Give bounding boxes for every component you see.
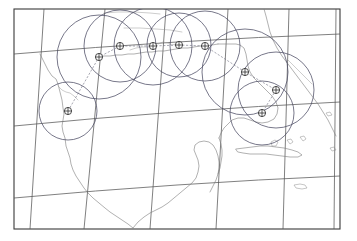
position-marker[interactable]: [64, 107, 71, 114]
position-marker[interactable]: [201, 42, 208, 49]
position-marker[interactable]: [241, 68, 248, 75]
position-marker[interactable]: [272, 86, 279, 93]
map-figure: [0, 0, 357, 241]
position-marker[interactable]: [175, 41, 182, 48]
map-canvas: [0, 0, 357, 241]
position-marker[interactable]: [258, 109, 265, 116]
position-marker[interactable]: [116, 42, 123, 49]
position-marker[interactable]: [95, 53, 102, 60]
position-marker[interactable]: [149, 42, 156, 49]
